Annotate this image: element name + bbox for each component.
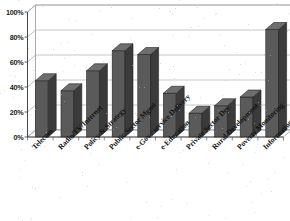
noise-speck [250,181,251,182]
noise-speck [240,64,241,65]
noise-speck [175,136,176,137]
noise-speck [130,38,131,39]
noise-speck [208,130,209,131]
noise-speck [248,119,249,120]
noise-speck [81,127,82,128]
noise-speck [249,112,250,113]
noise-speck [254,212,255,213]
noise-speck [111,66,112,67]
noise-speck [58,102,59,103]
noise-speck [90,153,91,154]
noise-speck [53,49,54,50]
noise-speck [183,150,184,151]
noise-speck [271,191,272,192]
noise-speck [264,54,265,55]
noise-speck [225,80,226,81]
noise-speck [222,128,223,129]
noise-speck [15,76,16,77]
noise-speck [198,26,199,27]
noise-speck [225,218,226,219]
noise-speck [287,31,288,32]
noise-speck [111,7,112,8]
noise-speck [173,35,174,36]
y-axis-tick-label: 0% [14,133,24,142]
bar-chart: 0%20%40%60%80%100% TelecomRadio/TV/Inter… [0,0,290,221]
noise-speck [161,206,162,207]
noise-speck [106,113,107,114]
noise-speck [33,70,34,71]
noise-speck [248,24,249,25]
noise-speck [42,6,43,7]
noise-speck [270,55,271,56]
noise-speck [242,164,243,165]
noise-speck [216,13,217,14]
noise-speck [284,157,285,158]
noise-speck [74,50,75,51]
noise-speck [87,186,88,187]
noise-speck [228,112,229,113]
noise-speck [38,142,39,143]
noise-speck [191,27,192,28]
noise-speck [61,43,62,44]
noise-speck [209,215,210,216]
noise-speck [75,20,76,21]
noise-speck [245,62,246,63]
y-axis-tick-label: 60% [10,58,24,67]
noise-speck [255,72,256,73]
noise-speck [113,129,114,130]
noise-speck [62,71,63,72]
noise-speck [208,163,209,164]
noise-speck [10,75,11,76]
noise-speck [266,110,267,111]
noise-speck [174,78,175,79]
noise-speck [189,36,190,37]
noise-speck [197,7,198,8]
noise-speck [98,164,99,165]
noise-speck [176,169,177,170]
noise-speck [116,127,117,128]
noise-speck [218,110,219,111]
y-axis-tick-label: 100% [6,8,24,17]
noise-speck [44,146,45,147]
noise-speck [64,58,65,59]
noise-speck [159,8,160,9]
noise-speck [236,52,237,53]
noise-speck [229,69,230,70]
y-axis-tick-label: 80% [10,33,24,42]
noise-speck [169,69,170,70]
noise-speck [261,193,262,194]
noise-speck [166,92,167,93]
noise-speck [277,3,278,4]
noise-speck [28,48,29,49]
noise-speck [61,94,62,95]
noise-speck [130,217,131,218]
noise-speck [40,146,41,147]
noise-speck [239,74,240,75]
noise-speck [22,129,23,130]
noise-speck [99,11,100,12]
noise-speck [186,203,187,204]
noise-speck [52,54,53,55]
noise-speck [185,123,186,124]
noise-speck [19,169,20,170]
noise-speck [177,105,178,106]
noise-speck [67,42,68,43]
noise-speck [82,172,83,173]
noise-speck [64,101,65,102]
noise-speck [254,123,255,124]
noise-speck [222,95,223,96]
noise-speck [22,220,23,221]
noise-speck [172,13,173,14]
noise-speck [30,114,31,115]
noise-speck [54,133,55,134]
noise-speck [215,14,216,15]
noise-speck [18,218,19,219]
noise-speck [246,186,247,187]
noise-speck [146,202,147,203]
noise-speck [103,61,104,62]
y-axis-tick-label: 40% [10,83,24,92]
noise-speck [260,105,261,106]
y-axis-tick-label: 20% [10,108,24,117]
noise-speck [32,187,33,188]
noise-speck [132,65,133,66]
